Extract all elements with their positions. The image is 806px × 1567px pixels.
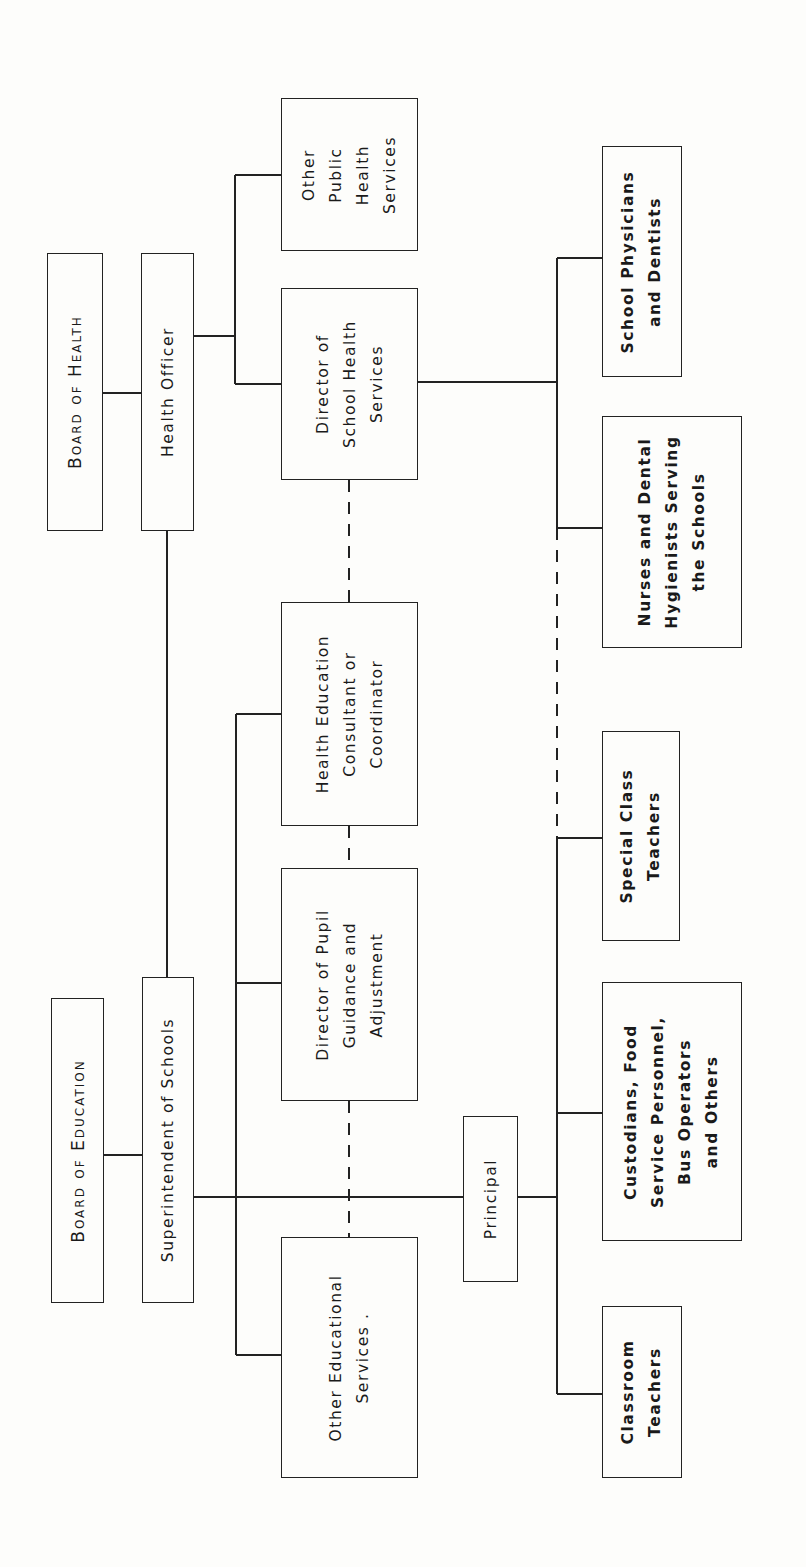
board-of-education-label: Board of Education bbox=[64, 1059, 91, 1243]
school-physicians-label: School Physicians and Dentists bbox=[615, 170, 669, 353]
other-public-health-label: Other Public Health Services bbox=[296, 135, 404, 213]
health-officer-box: Health Officer bbox=[141, 253, 194, 531]
director-pupil-box: Director of Pupil Guidance and Adjustmen… bbox=[281, 868, 418, 1101]
director-pupil-label: Director of Pupil Guidance and Adjustmen… bbox=[309, 909, 390, 1061]
custodians-label: Custodians, Food Service Personnel, Bus … bbox=[618, 1016, 726, 1208]
custodians-box: Custodians, Food Service Personnel, Bus … bbox=[602, 982, 742, 1241]
director-school-health-box: Director of School Health Services bbox=[281, 288, 418, 480]
superintendent-label: Superintendent of Schools bbox=[155, 1018, 182, 1263]
nurses-box: Nurses and Dental Hygienists Serving the… bbox=[602, 416, 742, 648]
board-of-education-box: Board of Education bbox=[51, 998, 104, 1303]
health-education-box: Health Education Consultant or Coordinat… bbox=[281, 602, 418, 826]
health-education-label: Health Education Consultant or Coordinat… bbox=[309, 635, 390, 794]
principal-box: Principal bbox=[463, 1116, 518, 1282]
board-of-health-label: Board of Health bbox=[62, 315, 89, 469]
other-public-health-box: Other Public Health Services bbox=[281, 98, 418, 251]
superintendent-box: Superintendent of Schools bbox=[142, 977, 194, 1303]
other-educational-box: Other Educational Services . bbox=[281, 1237, 418, 1478]
special-class-box: Special Class Teachers bbox=[602, 731, 680, 941]
principal-label: Principal bbox=[477, 1159, 504, 1239]
director-school-health-label: Director of School Health Services bbox=[309, 320, 390, 448]
board-of-health-box: Board of Health bbox=[47, 253, 103, 531]
org-chart: Board of Health Health Officer Other Pub… bbox=[0, 0, 806, 1567]
classroom-teachers-box: Classroom Teachers bbox=[602, 1306, 682, 1478]
school-physicians-box: School Physicians and Dentists bbox=[602, 146, 682, 377]
nurses-label: Nurses and Dental Hygienists Serving the… bbox=[632, 435, 713, 628]
health-officer-label: Health Officer bbox=[154, 327, 181, 457]
other-educational-label: Other Educational Services . bbox=[323, 1274, 377, 1441]
classroom-teachers-label: Classroom Teachers bbox=[615, 1339, 669, 1444]
special-class-label: Special Class Teachers bbox=[614, 769, 668, 904]
